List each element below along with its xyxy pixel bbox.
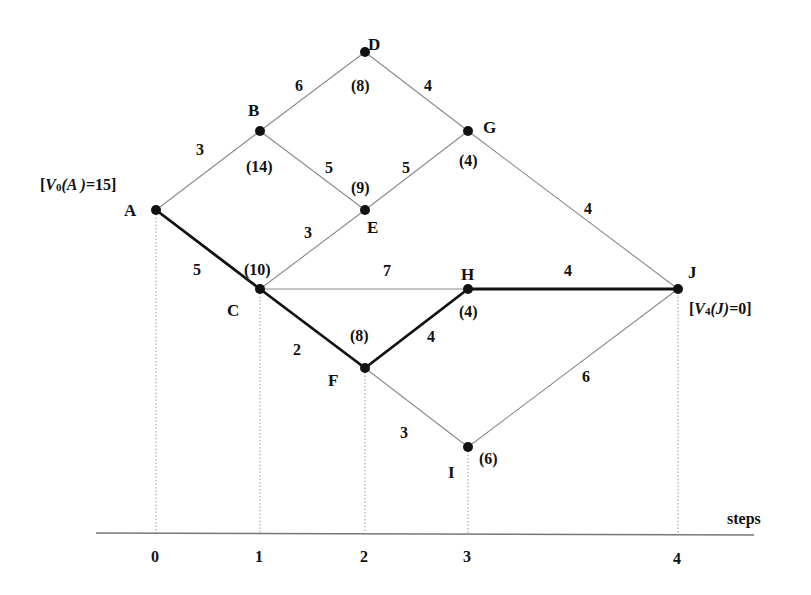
nodes — [151, 47, 683, 452]
weight-I-J: 6 — [582, 368, 590, 385]
weight-H-J: 4 — [564, 262, 572, 279]
label-J: J — [688, 263, 697, 282]
edge-G-J — [468, 131, 678, 289]
tick-3: 3 — [463, 548, 471, 565]
value-E: (9) — [351, 179, 370, 197]
edge-E-G — [365, 131, 468, 210]
node-G — [463, 126, 473, 136]
edge-B-D — [260, 52, 365, 131]
value-D: (8) — [351, 77, 370, 95]
label-A: A — [124, 201, 137, 220]
start-rest: =15] — [86, 176, 116, 193]
edge-B-E — [260, 131, 365, 210]
weight-D-G: 4 — [424, 77, 432, 94]
value-F: (8) — [350, 327, 369, 345]
weight-A-C: 5 — [193, 261, 201, 278]
node-C — [255, 284, 265, 294]
value-B: (14) — [246, 158, 273, 176]
end-arg: (J) — [711, 300, 730, 318]
label-E: E — [367, 218, 378, 237]
weight-C-F: 2 — [293, 341, 301, 358]
weight-G-J: 4 — [584, 200, 592, 217]
weight-C-H: 7 — [383, 262, 391, 279]
label-H: H — [461, 265, 474, 284]
start-arg: (A ) — [62, 176, 86, 194]
network-diagram: steps 0 1 2 3 4 A B C D E — [0, 0, 811, 595]
end-value-annotation: [V4(J)=0] — [689, 300, 752, 318]
label-I: I — [448, 463, 455, 482]
weight-C-E: 3 — [304, 224, 312, 241]
node-B — [255, 126, 265, 136]
value-H: (4) — [459, 303, 478, 321]
edge-D-G — [365, 52, 468, 131]
tick-1: 1 — [255, 548, 263, 565]
label-G: G — [483, 118, 496, 137]
weight-F-I: 3 — [400, 424, 408, 441]
step-guides — [156, 214, 678, 533]
label-C: C — [227, 301, 239, 320]
edges — [156, 52, 678, 447]
edge-A-B — [156, 131, 260, 210]
steps-axis — [96, 533, 754, 535]
node-H — [463, 284, 473, 294]
value-I: (6) — [479, 450, 498, 468]
edge-I-J — [468, 289, 678, 447]
label-D: D — [368, 35, 380, 54]
start-value-annotation: [V0(A )=15] — [40, 176, 116, 194]
end-rest: =0] — [729, 300, 751, 317]
tick-2: 2 — [360, 548, 368, 565]
value-G: (4) — [459, 152, 478, 170]
edge-F-I — [365, 368, 468, 447]
node-I — [463, 442, 473, 452]
axis-label: steps — [727, 510, 761, 528]
node-F — [360, 363, 370, 373]
value-C: (10) — [244, 261, 271, 279]
weight-B-D: 6 — [295, 77, 303, 94]
weight-A-B: 3 — [196, 141, 204, 158]
node-E — [360, 205, 370, 215]
tick-0: 0 — [151, 548, 159, 565]
weight-B-E: 5 — [325, 159, 333, 176]
node-A — [151, 205, 161, 215]
edge-C-E — [260, 210, 365, 289]
label-B: B — [248, 101, 259, 120]
weight-E-G: 5 — [402, 159, 410, 176]
edge-F-H-optimal — [365, 289, 468, 368]
tick-4: 4 — [673, 550, 681, 567]
node-J — [673, 284, 683, 294]
weight-F-H: 4 — [427, 328, 435, 345]
label-F: F — [328, 371, 338, 390]
